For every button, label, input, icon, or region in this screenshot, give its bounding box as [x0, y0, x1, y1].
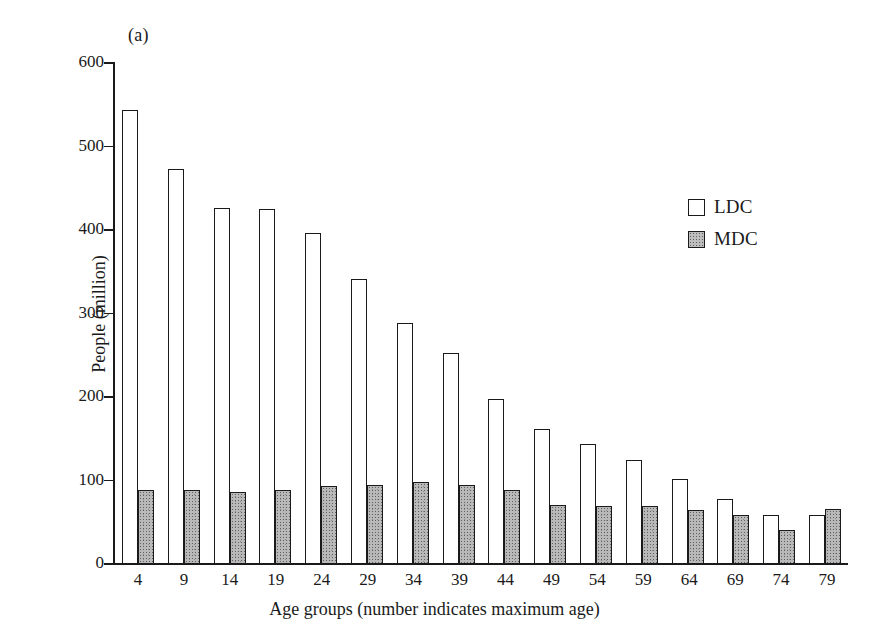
bar-group-4	[115, 62, 161, 563]
y-tick-mark	[104, 563, 114, 565]
bar-group-24	[298, 62, 344, 563]
bar-mdc-64[interactable]	[688, 510, 704, 563]
bar-groups	[115, 62, 848, 563]
bar-ldc-74[interactable]	[763, 515, 779, 563]
legend: LDCMDC	[688, 196, 758, 250]
bar-group-9	[161, 62, 207, 563]
x-tick-label-59: 59	[620, 570, 666, 590]
x-tick-label-74: 74	[758, 570, 804, 590]
bar-mdc-44[interactable]	[504, 490, 520, 563]
bar-mdc-39[interactable]	[459, 485, 475, 563]
bar-mdc-49[interactable]	[550, 505, 566, 563]
bar-ldc-79[interactable]	[809, 515, 825, 563]
bar-mdc-34[interactable]	[413, 482, 429, 563]
y-tick-label: 500	[79, 135, 105, 155]
x-tick-label-39: 39	[437, 570, 483, 590]
x-axis-line	[113, 563, 848, 565]
legend-item-mdc[interactable]: MDC	[688, 228, 758, 250]
x-tick-label-29: 29	[345, 570, 391, 590]
bar-ldc-24[interactable]	[305, 233, 321, 563]
y-tick-label: 100	[79, 469, 105, 489]
bar-ldc-9[interactable]	[168, 169, 184, 563]
bar-ldc-4[interactable]	[122, 110, 138, 563]
bar-mdc-19[interactable]	[275, 490, 291, 563]
bar-group-34	[390, 62, 436, 563]
bar-ldc-34[interactable]	[397, 323, 413, 563]
y-tick-mark	[104, 396, 114, 398]
bar-group-64	[665, 62, 711, 563]
x-tick-label-79: 79	[804, 570, 850, 590]
bar-ldc-29[interactable]	[351, 279, 367, 563]
bar-group-79	[802, 62, 848, 563]
bar-group-59	[619, 62, 665, 563]
x-tick-label-9: 9	[161, 570, 207, 590]
bar-ldc-19[interactable]	[259, 209, 275, 563]
legend-label: MDC	[714, 228, 758, 250]
y-tick-mark	[104, 62, 114, 64]
bar-ldc-44[interactable]	[488, 399, 504, 563]
figure-panel-a: (a) People (million) 0100200300400500600…	[0, 0, 869, 639]
y-tick-label: 400	[79, 219, 105, 239]
x-tick-label-64: 64	[666, 570, 712, 590]
y-tick-mark	[104, 146, 114, 148]
bar-group-44	[482, 62, 528, 563]
bar-ldc-64[interactable]	[672, 479, 688, 563]
y-tick-label: 0	[96, 553, 105, 573]
bar-mdc-24[interactable]	[321, 486, 337, 563]
bar-mdc-69[interactable]	[733, 515, 749, 563]
bar-mdc-54[interactable]	[596, 506, 612, 563]
legend-swatch-ldc-icon	[688, 199, 705, 216]
legend-swatch-mdc-icon	[688, 231, 705, 248]
bar-group-69	[711, 62, 757, 563]
bar-group-49	[527, 62, 573, 563]
x-tick-label-14: 14	[207, 570, 253, 590]
bar-ldc-59[interactable]	[626, 460, 642, 563]
bar-group-14	[207, 62, 253, 563]
bar-mdc-79[interactable]	[825, 509, 841, 563]
legend-item-ldc[interactable]: LDC	[688, 196, 758, 218]
x-tick-label-24: 24	[299, 570, 345, 590]
bar-group-29	[344, 62, 390, 563]
bar-ldc-14[interactable]	[214, 208, 230, 563]
x-tick-label-54: 54	[574, 570, 620, 590]
x-tick-label-4: 4	[115, 570, 161, 590]
y-tick-label: 300	[79, 302, 105, 322]
x-tick-label-49: 49	[528, 570, 574, 590]
bar-group-39	[436, 62, 482, 563]
bar-group-74	[756, 62, 802, 563]
bar-group-54	[573, 62, 619, 563]
y-tick-mark	[104, 229, 114, 231]
x-tick-label-19: 19	[253, 570, 299, 590]
bar-mdc-74[interactable]	[779, 530, 795, 563]
bar-mdc-9[interactable]	[184, 490, 200, 563]
y-tick-mark	[104, 480, 114, 482]
legend-label: LDC	[714, 196, 753, 218]
bar-mdc-4[interactable]	[138, 490, 154, 563]
bar-ldc-54[interactable]	[580, 444, 596, 563]
x-tick-label-34: 34	[391, 570, 437, 590]
x-tick-label-44: 44	[483, 570, 529, 590]
bar-ldc-39[interactable]	[443, 353, 459, 563]
x-axis-ticks: 491419242934394449545964697479	[115, 570, 850, 590]
bar-ldc-69[interactable]	[717, 499, 733, 563]
y-tick-label: 200	[79, 386, 105, 406]
y-tick-mark	[104, 313, 114, 315]
x-axis-title: Age groups (number indicates maximum age…	[0, 599, 869, 620]
bar-mdc-14[interactable]	[230, 492, 246, 563]
panel-label: (a)	[128, 25, 149, 46]
plot-area: People (million) 0100200300400500600	[113, 62, 848, 565]
y-tick-label: 600	[79, 52, 105, 72]
x-tick-label-69: 69	[712, 570, 758, 590]
bar-mdc-29[interactable]	[367, 485, 383, 563]
bar-group-19	[252, 62, 298, 563]
bar-mdc-59[interactable]	[642, 506, 658, 563]
bar-ldc-49[interactable]	[534, 429, 550, 563]
